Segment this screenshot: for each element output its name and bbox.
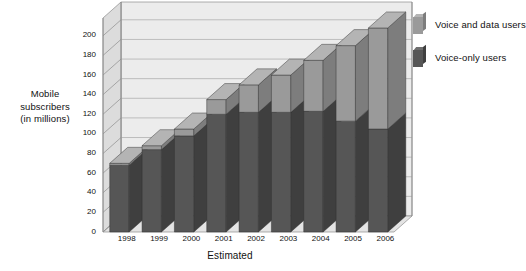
bar-group-2000 [174,113,211,232]
y-tick-label-180: 180 [48,50,96,59]
bar-group-1999 [142,130,179,232]
legend-swatch-icon [413,47,426,67]
bar-voice-data-front-2003 [271,75,290,112]
bar-voice-data-front-2006 [368,28,387,129]
bar-voice-only-front-2001 [207,114,226,232]
x-axis-title: Estimated [150,250,310,263]
bar-group-2002 [239,69,276,232]
legend-label: Voice-only users [435,52,506,63]
x-tick-label-1998: 1998 [111,234,143,243]
x-tick-label-2003: 2003 [272,234,304,243]
bar-voice-data-front-2004 [304,60,323,111]
bar-voice-data-front-2002 [239,85,258,112]
x-tick-label-1999: 1999 [143,234,175,243]
legend-swatch-icon [413,14,426,34]
bar-voice-data-front-2001 [207,100,226,115]
y-tick-label-120: 120 [48,109,96,118]
bar-voice-data-front-2000 [174,129,193,136]
y-tick-label-20: 20 [48,207,96,216]
bar-voice-only-side-2006 [388,113,406,232]
x-tick-label-2004: 2004 [305,234,337,243]
bar-group-2004 [304,44,341,232]
bar-voice-data-front-1999 [142,146,161,150]
x-tick-label-2001: 2001 [208,234,240,243]
bar-group-2005 [336,30,373,232]
bar-group-2003 [271,59,308,232]
bar-voice-only-front-1998 [110,165,129,232]
bar-voice-only-front-2003 [271,112,290,232]
y-tick-label-40: 40 [48,187,96,196]
y-tick-label-0: 0 [48,227,96,236]
bar-voice-only-front-2004 [304,111,323,232]
bar-voice-only-front-2005 [336,121,355,232]
bar-voice-only-front-2000 [174,136,193,232]
x-tick-label-2002: 2002 [240,234,272,243]
legend-item-voice-only: Voice-only users [413,47,506,67]
y-tick-label-80: 80 [48,148,96,157]
x-tick-label-2006: 2006 [369,234,401,243]
bar-voice-data-side-2006 [388,12,406,129]
y-tick-label-60: 60 [48,168,96,177]
bar-voice-data-front-2005 [336,46,355,122]
bar-group-2001 [207,84,244,232]
y-tick-label-100: 100 [48,128,96,137]
bar-group-1998 [110,147,147,232]
legend-label: Voice and data users [435,19,526,30]
y-tick-label-200: 200 [48,30,96,39]
bar-group-2006 [368,12,405,232]
legend-item-voice-and-data: Voice and data users [413,14,526,34]
bar-voice-data-front-1998 [110,163,129,165]
bar-voice-only-front-1999 [142,150,161,232]
x-tick-label-2000: 2000 [175,234,207,243]
y-tick-label-140: 140 [48,89,96,98]
bar-voice-only-front-2006 [368,129,387,232]
bar-voice-only-front-2002 [239,112,258,232]
y-tick-label-160: 160 [48,70,96,79]
x-tick-label-2005: 2005 [337,234,369,243]
